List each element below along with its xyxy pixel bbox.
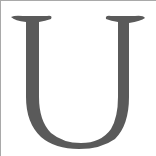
glyph-frame: U	[0, 0, 156, 156]
letter-u-glyph	[1, 1, 156, 156]
